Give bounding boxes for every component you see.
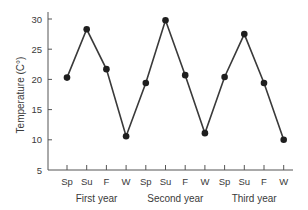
data-point-marker — [280, 137, 287, 144]
data-point-marker — [83, 26, 90, 33]
x-tick-label: Sp — [219, 176, 231, 187]
y-tick-label: 25 — [31, 44, 42, 55]
data-point-marker — [202, 130, 209, 137]
x-tick-label: W — [122, 176, 131, 187]
series-line — [67, 20, 284, 140]
data-point-marker — [64, 74, 71, 81]
x-tick-label: Su — [160, 176, 172, 187]
data-point-marker — [182, 72, 189, 79]
x-tick-label: W — [200, 176, 209, 187]
data-point-marker — [123, 133, 130, 140]
data-point-marker — [143, 80, 150, 87]
data-point-marker — [221, 74, 228, 81]
y-tick-label: 5 — [37, 165, 42, 176]
data-point-marker — [103, 66, 110, 73]
x-tick-label: Sp — [140, 176, 152, 187]
x-group-label: Third year — [232, 193, 278, 204]
y-axis-title: Temperature (C°) — [15, 57, 26, 134]
y-axis: 51015202530 — [31, 12, 52, 176]
x-tick-label: Sp — [61, 176, 73, 187]
y-tick-label: 15 — [31, 104, 42, 115]
x-tick-label: F — [261, 176, 267, 187]
x-axis: SpSuFWSpSuFWSpSuFWFirst yearSecond yearT… — [48, 165, 293, 204]
data-point-marker — [241, 31, 248, 38]
data-point-marker — [162, 17, 169, 24]
x-tick-label: W — [279, 176, 288, 187]
chart-canvas: 51015202530 SpSuFWSpSuFWSpSuFWFirst year… — [0, 0, 308, 210]
x-tick-label: F — [103, 176, 109, 187]
x-group-label: Second year — [147, 193, 204, 204]
y-tick-label: 10 — [31, 134, 42, 145]
y-tick-label: 30 — [31, 14, 42, 25]
series-layer — [64, 17, 287, 143]
temperature-line-chart: 51015202530 SpSuFWSpSuFWSpSuFWFirst year… — [0, 0, 308, 210]
y-tick-label: 20 — [31, 74, 42, 85]
x-tick-label: F — [182, 176, 188, 187]
x-group-label: First year — [76, 193, 118, 204]
x-tick-label: Su — [81, 176, 93, 187]
data-point-marker — [261, 80, 268, 87]
x-tick-label: Su — [238, 176, 250, 187]
